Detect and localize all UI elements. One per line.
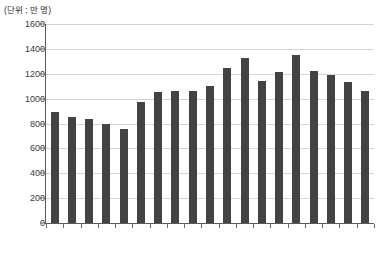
x-tick-mark (374, 224, 375, 228)
y-axis-labels: 02004006008001000120014001600 (0, 0, 45, 266)
x-tick-mark (219, 224, 220, 228)
bar (120, 129, 128, 223)
bar (171, 91, 179, 223)
bar (327, 75, 335, 223)
bar (344, 82, 352, 223)
bar (102, 124, 110, 224)
bar (68, 117, 76, 223)
y-tick-label: 1400 (5, 44, 45, 54)
x-tick-mark (63, 224, 64, 228)
x-tick-mark (253, 224, 254, 228)
bar (275, 72, 283, 223)
bar (258, 81, 266, 223)
bar (137, 102, 145, 223)
x-tick-mark (167, 224, 168, 228)
bar (310, 71, 318, 223)
x-tick-mark (46, 224, 47, 228)
bar (206, 86, 214, 223)
x-tick-mark (98, 224, 99, 228)
x-tick-mark (81, 224, 82, 228)
bar (241, 58, 249, 223)
gridline (46, 49, 374, 50)
bar (189, 91, 197, 223)
y-tick-label: 1200 (5, 69, 45, 79)
x-tick-mark (357, 224, 358, 228)
x-tick-mark (322, 224, 323, 228)
x-tick-mark (184, 224, 185, 228)
y-tick-label: 1000 (5, 94, 45, 104)
x-tick-mark (132, 224, 133, 228)
x-tick-mark (201, 224, 202, 228)
y-tick-label: 400 (5, 168, 45, 178)
bar (154, 92, 162, 223)
bar (223, 68, 231, 223)
x-tick-mark (115, 224, 116, 228)
bar (361, 91, 369, 223)
y-tick-label: 0 (5, 218, 45, 228)
bar (85, 119, 93, 223)
x-tick-mark (236, 224, 237, 228)
plot-area (46, 24, 374, 223)
chart-container: (단위 : 만 명) 02004006008001000120014001600… (0, 0, 382, 266)
bar (292, 55, 300, 223)
y-tick-label: 1600 (5, 19, 45, 29)
bar (51, 112, 59, 223)
y-tick-label: 200 (5, 193, 45, 203)
x-tick-mark (305, 224, 306, 228)
x-tick-mark (339, 224, 340, 228)
y-tick-label: 600 (5, 143, 45, 153)
gridline (46, 24, 374, 25)
x-tick-mark (150, 224, 151, 228)
gridline (46, 74, 374, 75)
x-tick-mark (270, 224, 271, 228)
x-axis-line (46, 223, 374, 224)
x-tick-mark (288, 224, 289, 228)
y-tick-label: 800 (5, 119, 45, 129)
